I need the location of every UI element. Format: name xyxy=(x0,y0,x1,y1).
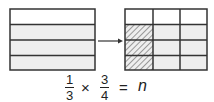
hatched-cells xyxy=(125,24,153,70)
numerator: 3 xyxy=(101,73,108,86)
fraction-three-fourths: 3 4 xyxy=(100,73,109,102)
numerator: 1 xyxy=(66,73,73,86)
left-area-model xyxy=(10,9,95,70)
times-sign: × xyxy=(81,79,90,96)
denominator: 3 xyxy=(66,89,73,102)
right-area-model xyxy=(125,9,207,70)
denominator: 4 xyxy=(101,89,108,102)
variable-n: n xyxy=(138,77,147,95)
equation: 1 3 × 3 4 = n xyxy=(0,71,214,102)
fraction-one-third: 1 3 xyxy=(65,73,74,102)
right-arrow-icon xyxy=(98,39,123,44)
equals-sign: = xyxy=(119,79,128,96)
